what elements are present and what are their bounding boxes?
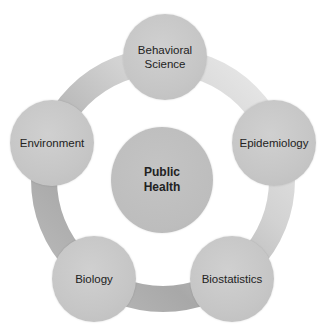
- node-behavioral-science: Behavioral Science: [123, 14, 207, 100]
- node-public-health-center: Public Health: [111, 127, 213, 233]
- node-label: Epidemiology: [239, 136, 308, 150]
- node-label: Biology: [75, 272, 113, 286]
- node-epidemiology: Epidemiology: [232, 100, 316, 186]
- center-label: Public Health: [144, 165, 181, 195]
- node-label: Behavioral Science: [138, 43, 192, 71]
- node-environment: Environment: [10, 100, 94, 186]
- node-biology: Biology: [52, 236, 136, 322]
- node-label: Biostatistics: [202, 272, 263, 286]
- node-biostatistics: Biostatistics: [190, 236, 274, 322]
- public-health-diagram: Behavioral Science Epidemiology Biostati…: [0, 0, 327, 333]
- node-label: Environment: [20, 136, 85, 150]
